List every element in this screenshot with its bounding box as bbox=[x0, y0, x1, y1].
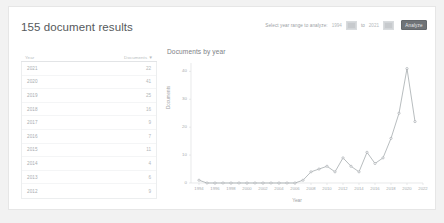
chart-svg bbox=[165, 57, 429, 203]
range-separator: to bbox=[361, 23, 365, 28]
table-row[interactable]: 20179 bbox=[22, 116, 156, 130]
plot-area: Documents Year 0102030401994199619982000… bbox=[165, 57, 429, 203]
year-from-value: 1994 bbox=[332, 23, 342, 28]
table-row[interactable]: 20144 bbox=[22, 157, 156, 171]
y-axis-label: Documents bbox=[166, 86, 171, 109]
table-row[interactable]: 202122 bbox=[22, 62, 156, 76]
cell-year: 2020 bbox=[27, 79, 38, 84]
year-to-value: 2021 bbox=[369, 23, 379, 28]
analyze-button-label: Analyze bbox=[405, 23, 422, 28]
results-card: 155 document results Select year range t… bbox=[8, 6, 436, 210]
documents-by-year-chart: Documents by year Documents Year 0102030… bbox=[165, 48, 429, 206]
x-axis-tick: 2016 bbox=[370, 186, 379, 191]
cell-year: 2013 bbox=[27, 175, 38, 180]
cell-year: 2016 bbox=[27, 134, 38, 139]
cell-year: 2014 bbox=[27, 161, 38, 166]
column-header-year[interactable]: Year bbox=[25, 55, 34, 60]
x-axis-tick: 1998 bbox=[226, 186, 235, 191]
x-axis-tick: 2008 bbox=[306, 186, 315, 191]
cell-documents: 7 bbox=[148, 134, 151, 139]
table-row[interactable]: 20129 bbox=[22, 184, 156, 198]
x-axis-tick: 2010 bbox=[322, 186, 331, 191]
year-to-select[interactable] bbox=[383, 21, 394, 30]
column-header-documents[interactable]: Documents ▼ bbox=[124, 55, 153, 60]
cell-year: 2017 bbox=[27, 120, 38, 125]
x-axis-tick: 2020 bbox=[402, 186, 411, 191]
x-axis-tick: 2018 bbox=[386, 186, 395, 191]
cell-documents: 9 bbox=[148, 120, 151, 125]
x-axis-tick: 2002 bbox=[258, 186, 267, 191]
chevron-down-icon bbox=[385, 23, 392, 28]
cell-documents: 6 bbox=[148, 175, 151, 180]
cell-documents: 16 bbox=[146, 107, 151, 112]
cell-documents: 4 bbox=[148, 161, 151, 166]
table-row[interactable]: 202041 bbox=[22, 76, 156, 90]
cell-documents: 25 bbox=[146, 93, 151, 98]
y-axis-tick: 20 bbox=[175, 124, 187, 129]
year-range-label: Select year range to analyze: bbox=[265, 23, 327, 28]
x-axis-tick: 2014 bbox=[354, 186, 363, 191]
y-axis-tick: 10 bbox=[175, 152, 187, 157]
table-row[interactable]: 201816 bbox=[22, 103, 156, 117]
cell-year: 2021 bbox=[27, 66, 38, 71]
year-results-table: Year Documents ▼ 20212220204120192520181… bbox=[21, 48, 157, 203]
chart-title: Documents by year bbox=[167, 48, 429, 55]
y-axis-tick: 0 bbox=[175, 180, 187, 185]
table-row[interactable]: 20136 bbox=[22, 171, 156, 185]
cell-documents: 11 bbox=[146, 147, 151, 152]
analyze-button[interactable]: Analyze bbox=[401, 20, 427, 30]
x-axis-tick: 1996 bbox=[210, 186, 219, 191]
x-axis-tick: 2022 bbox=[418, 186, 427, 191]
x-axis-tick: 2000 bbox=[242, 186, 251, 191]
app-root: 155 document results Select year range t… bbox=[0, 0, 444, 223]
x-axis-tick: 1994 bbox=[194, 186, 203, 191]
chevron-down-icon bbox=[348, 23, 355, 28]
x-axis-tick: 2006 bbox=[290, 186, 299, 191]
cell-year: 2019 bbox=[27, 93, 38, 98]
table-row[interactable]: 20167 bbox=[22, 130, 156, 144]
cell-documents: 22 bbox=[146, 66, 151, 71]
cell-year: 2018 bbox=[27, 107, 38, 112]
x-axis-tick: 2004 bbox=[274, 186, 283, 191]
cell-year: 2015 bbox=[27, 147, 38, 152]
year-from-select[interactable] bbox=[346, 21, 357, 30]
page-title: 155 document results bbox=[21, 21, 133, 33]
table-row[interactable]: 201511 bbox=[22, 144, 156, 158]
cell-documents: 9 bbox=[148, 189, 151, 194]
year-range-controls: Select year range to analyze: 1994 to 20… bbox=[265, 20, 427, 30]
y-axis-tick: 30 bbox=[175, 96, 187, 101]
table-header-row: Year Documents ▼ bbox=[21, 48, 157, 62]
sort-descending-icon: ▼ bbox=[149, 55, 153, 60]
table-row[interactable]: 201925 bbox=[22, 89, 156, 103]
cell-documents: 41 bbox=[146, 79, 151, 84]
cell-year: 2012 bbox=[27, 189, 38, 194]
table-body: 2021222020412019252018162017920167201511… bbox=[21, 62, 157, 199]
x-axis-label: Year bbox=[165, 198, 429, 203]
y-axis-tick: 40 bbox=[175, 68, 187, 73]
x-axis-tick: 2012 bbox=[338, 186, 347, 191]
